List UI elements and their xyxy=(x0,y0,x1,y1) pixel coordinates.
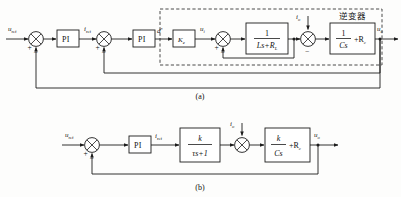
sign-plus-inductor-summer-a: + xyxy=(215,43,219,52)
inner-pi-label: PI xyxy=(138,35,146,44)
label-duty-ratio: d* xyxy=(157,27,164,35)
inverter-group-label: 逆变器 xyxy=(339,11,366,21)
impedance-numerator: k xyxy=(277,134,281,143)
figure-container: uref + − PI iref + − PI d* Ke ui + − 1 L… xyxy=(0,0,401,197)
sign-minus-inductor-summer-a: − xyxy=(221,48,225,57)
filter-inductor-denominator: Ls+RL xyxy=(256,41,278,51)
sign-minus-voltage-summer-a: − xyxy=(34,48,38,57)
outer-pi-label: PI xyxy=(62,35,70,44)
label-u-o-a: uo xyxy=(377,25,384,34)
filter-capacitor-denominator: Cs xyxy=(339,41,347,50)
label-u-ref-a: uref xyxy=(8,25,17,34)
caption-b: (b) xyxy=(195,183,205,192)
filter-capacitor-numerator: 1 xyxy=(342,29,346,38)
sign-minus-current-summer-a: − xyxy=(102,48,106,57)
label-u-o-b: uo xyxy=(314,131,321,140)
filter-inductor-numerator: 1 xyxy=(265,29,269,38)
label-i-o-a: io xyxy=(296,13,301,22)
impedance-denominator: Cs xyxy=(274,149,282,158)
sign-plus-current-summer-a: + xyxy=(96,43,100,52)
label-u-ref-b: uref xyxy=(65,131,74,140)
label-u-i: ui xyxy=(200,25,206,34)
caption-a: (a) xyxy=(196,92,205,101)
sign-minus-load-summer-a: − xyxy=(305,47,309,56)
sign-plus-voltage-summer-b: + xyxy=(84,149,88,158)
output-impedance-block xyxy=(265,128,310,162)
block-diagram-svg: uref + − PI iref + − PI d* Ke ui + − 1 L… xyxy=(0,0,401,197)
feedback-output-voltage xyxy=(36,39,380,88)
label-i-ref-a: iref xyxy=(84,25,92,34)
pi-controller-label-b: PI xyxy=(134,141,142,150)
label-i-ref-b: iref xyxy=(155,132,163,141)
sign-plus-voltage-summer-a: + xyxy=(28,43,32,52)
sign-minus-voltage-summer-b: − xyxy=(90,154,94,163)
lag-denominator: τs+1 xyxy=(192,149,207,158)
label-i-o-b: io xyxy=(230,120,235,129)
lag-numerator: k xyxy=(198,134,202,143)
